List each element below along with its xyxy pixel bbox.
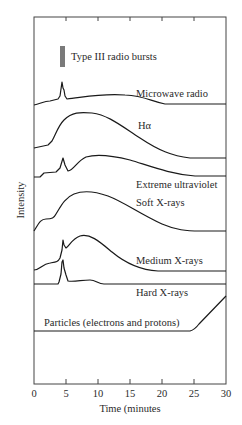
y-axis-label: Intensity <box>15 181 26 218</box>
x-tick-10: 10 <box>93 388 104 399</box>
x-tick-0: 0 <box>31 388 36 399</box>
bottom-ticks <box>66 379 194 384</box>
label-microwave-radio: Microwave radio <box>136 88 208 99</box>
label-extreme-ultraviolet: Extreme ultraviolet <box>136 179 217 190</box>
x-tick-5: 5 <box>63 388 68 399</box>
solar-flare-chart: 0 5 10 15 20 25 30 Time (minutes Intensi… <box>0 0 242 425</box>
plot-frame <box>34 17 226 384</box>
x-tick-labels: 0 5 10 15 20 25 30 <box>31 388 231 399</box>
label-h-alpha: Hα <box>138 120 152 131</box>
type3-burst-marker <box>60 46 65 67</box>
label-soft-x-rays: Soft X-rays <box>136 197 185 208</box>
type3-label: Type III radio bursts <box>71 51 157 62</box>
label-hard-x-rays: Hard X-rays <box>136 287 188 298</box>
curve-h-alpha <box>34 113 226 158</box>
x-tick-30: 30 <box>221 388 232 399</box>
label-medium-x-rays: Medium X-rays <box>136 255 203 266</box>
top-ticks <box>66 17 194 21</box>
x-tick-25: 25 <box>189 388 200 399</box>
x-axis-label: Time (minutes <box>99 403 160 415</box>
x-tick-15: 15 <box>125 388 136 399</box>
x-tick-20: 20 <box>157 388 168 399</box>
label-particles: Particles (electrons and protons) <box>44 317 180 329</box>
curve-soft-x-rays <box>34 192 226 231</box>
